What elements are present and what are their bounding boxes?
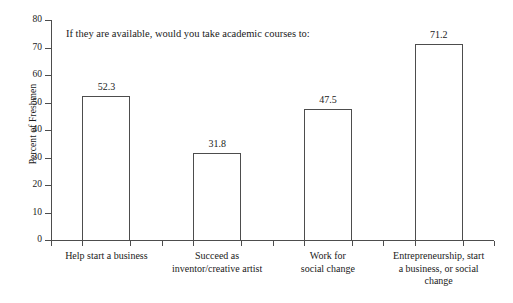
category-label-line: Work for: [273, 250, 384, 263]
x-axis-tick: [463, 241, 464, 246]
y-axis-tick: [45, 130, 51, 131]
y-axis-tick: [45, 213, 51, 214]
bar: [193, 153, 241, 241]
bar: [304, 109, 352, 241]
x-axis-category-boundary-tick: [383, 241, 384, 246]
y-axis-tick-label: 20: [0, 180, 42, 190]
y-axis-tick: [45, 158, 51, 159]
x-axis-tick: [352, 241, 353, 246]
category-label-line: Succeed as: [162, 250, 273, 263]
y-axis-tick-label: 30: [0, 153, 42, 163]
category-label-line: Entrepreneurship, start: [383, 250, 494, 263]
bar-value-label: 47.5: [298, 95, 358, 105]
y-axis-tick-label: 70: [0, 43, 42, 53]
bar-value-label: 71.2: [409, 30, 469, 40]
x-axis-category-boundary-tick: [162, 241, 163, 246]
bar-chart: Percent of Freshmen 01020304050607080 52…: [0, 0, 513, 303]
x-axis-category-label: Succeed asinventor/creative artist: [162, 250, 273, 275]
y-axis-tick: [45, 103, 51, 104]
bar: [82, 96, 130, 241]
x-axis-tick: [415, 241, 416, 246]
x-axis-category-boundary-tick: [51, 241, 52, 246]
chart-title: If they are available, would you take ac…: [66, 29, 310, 40]
bar-value-label: 52.3: [76, 82, 136, 92]
bar-value-label: 31.8: [187, 139, 247, 149]
y-axis-tick-label: 50: [0, 98, 42, 108]
category-label-line: change: [383, 275, 494, 288]
category-label-line: Help start a business: [51, 250, 162, 263]
y-axis-tick: [45, 185, 51, 186]
x-axis-category-label: Work forsocial change: [273, 250, 384, 275]
x-axis-end-tick: [494, 241, 495, 246]
x-axis-tick: [304, 241, 305, 246]
y-axis-tick-label: 0: [0, 235, 42, 245]
category-label-line: social change: [273, 263, 384, 276]
x-axis-tick: [82, 241, 83, 246]
y-axis-tick-label: 60: [0, 70, 42, 80]
x-axis-category-label: Help start a business: [51, 250, 162, 263]
x-axis-category-boundary-tick: [273, 241, 274, 246]
x-axis-tick: [193, 241, 194, 246]
y-axis-line: [51, 20, 52, 241]
y-axis-tick-label: 10: [0, 208, 42, 218]
y-axis-tick: [45, 75, 51, 76]
bar: [415, 44, 463, 241]
y-axis-tick-label: 80: [0, 15, 42, 25]
y-axis-tick-label: 40: [0, 125, 42, 135]
x-axis-category-label: Entrepreneurship, starta business, or so…: [383, 250, 494, 288]
y-axis-tick: [45, 48, 51, 49]
x-axis-tick: [241, 241, 242, 246]
x-axis-tick: [130, 241, 131, 246]
y-axis-tick: [45, 20, 51, 21]
category-label-line: inventor/creative artist: [162, 263, 273, 276]
category-label-line: a business, or social: [383, 263, 494, 276]
